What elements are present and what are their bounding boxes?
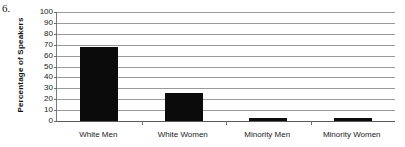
bar-slot — [226, 12, 311, 121]
y-tick-label: 100 — [40, 8, 53, 16]
x-axis-label: Minority Men — [225, 128, 310, 142]
bar — [249, 118, 287, 121]
x-axis-labels: White MenWhite WomenMinority MenMinority… — [56, 128, 394, 142]
y-tick-label: 0 — [49, 117, 53, 125]
bar — [334, 118, 372, 121]
bar-slot — [311, 12, 396, 121]
y-tick-label: 20 — [44, 95, 53, 103]
bar-slot — [57, 12, 142, 121]
plot-area: 0102030405060708090100 — [56, 12, 395, 122]
y-axis-title-container: Percentage of Speakers — [13, 8, 27, 122]
bar-series — [57, 12, 395, 121]
y-tick-mark — [54, 121, 57, 122]
y-axis-title: Percentage of Speakers — [16, 17, 25, 112]
y-tick-label: 60 — [44, 52, 53, 60]
y-tick-label: 40 — [44, 73, 53, 81]
bar — [165, 93, 203, 121]
x-tick-mark — [142, 121, 143, 125]
x-tick-mark — [311, 121, 312, 125]
y-tick-label: 30 — [44, 84, 53, 92]
y-tick-label: 50 — [44, 63, 53, 71]
chart-figure: 6. Percentage of Speakers 01020304050607… — [0, 0, 405, 147]
y-tick-label: 10 — [44, 106, 53, 114]
x-tick-mark — [226, 121, 227, 125]
bar-slot — [142, 12, 227, 121]
x-axis-label: White Women — [141, 128, 226, 142]
y-tick-label: 80 — [44, 30, 53, 38]
bar — [80, 47, 118, 121]
x-axis-label: White Men — [56, 128, 141, 142]
x-axis-label: Minority Women — [310, 128, 395, 142]
figure-number-label: 6. — [2, 2, 10, 14]
y-tick-label: 70 — [44, 41, 53, 49]
y-tick-label: 90 — [44, 19, 53, 27]
